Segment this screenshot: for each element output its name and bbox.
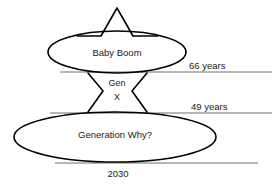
label-2030: 2030: [107, 168, 128, 179]
diagram-canvas: Baby Boom Gen X Generation Why? 66 years…: [0, 0, 275, 185]
gen-x-right-edge: [132, 73, 147, 112]
generation-why-label: Generation Why?: [78, 129, 152, 140]
gen-x-label-line1: Gen: [108, 78, 125, 88]
label-49-years: 49 years: [191, 101, 228, 112]
gen-x-left-edge: [88, 73, 103, 112]
baby-boom-label: Baby Boom: [92, 47, 141, 58]
generational-diagram: Baby Boom Gen X Generation Why? 66 years…: [0, 0, 275, 185]
gen-x-label-line2: X: [114, 92, 120, 102]
label-66-years: 66 years: [189, 60, 226, 71]
